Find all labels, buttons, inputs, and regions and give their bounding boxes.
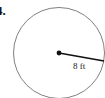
center-point [57,51,62,56]
radius-label: 8 ft [73,62,85,71]
circle-diagram [0,0,105,98]
radius-line [59,53,104,61]
